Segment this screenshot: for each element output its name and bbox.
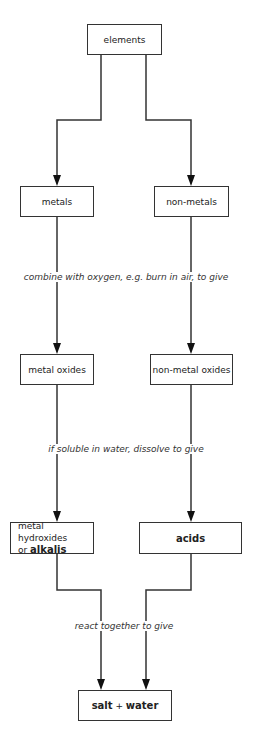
node-label: non-metal oxides [153, 365, 231, 375]
node-label: acids [176, 533, 205, 544]
arrowhead-icon [97, 679, 105, 690]
node-metal-hydroxides: metal hydroxides or alkalis [10, 522, 94, 554]
arrowhead-icon [187, 511, 195, 522]
edge-elements-to-metals [57, 54, 101, 176]
node-label: metal hydroxides [18, 520, 93, 544]
node-elements: elements [87, 24, 162, 55]
arrowhead-icon [187, 343, 195, 354]
node-acids: acids [139, 522, 242, 554]
node-label: non-metals [166, 197, 217, 207]
node-metal-oxides: metal oxides [20, 354, 94, 385]
edge-label-combine: combine with oxygen, e.g. burn in air, t… [23, 272, 230, 282]
node-label-water: water [126, 700, 158, 711]
edge-label-react: react together to give [74, 621, 175, 631]
node-metals: metals [20, 186, 94, 217]
edge-elements-to-non-metals [146, 54, 191, 176]
edge-alkalis-to-salt [57, 553, 101, 680]
edge-acids-to-salt [146, 553, 191, 680]
node-label: metals [42, 197, 73, 207]
arrowhead-icon [142, 679, 150, 690]
arrowhead-icon [53, 175, 61, 186]
node-label: elements [104, 35, 146, 45]
node-label-salt: salt [92, 700, 113, 711]
node-non-metal-oxides: non-metal oxides [150, 354, 233, 385]
node-label: metal oxides [28, 365, 86, 375]
edge-label-dissolve: if soluble in water, dissolve to give [47, 444, 204, 454]
node-label: or [18, 545, 30, 555]
node-salt-water: salt + water [78, 690, 172, 721]
arrowhead-icon [187, 175, 195, 186]
node-non-metals: non-metals [154, 186, 229, 217]
node-label-plus: + [113, 701, 126, 711]
arrowhead-icon [53, 343, 61, 354]
node-label-alkalis: alkalis [30, 544, 66, 555]
